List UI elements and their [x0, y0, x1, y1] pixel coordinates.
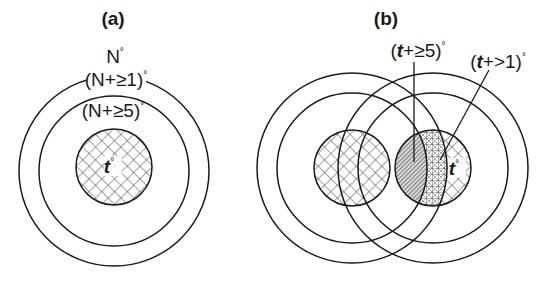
panel-a: (a) N° (N+≥1)° (N+≥5)° t° [19, 8, 209, 266]
diagram-canvas: (a) N° (N+≥1)° (N+≥5)° t° (b) (t+≥5)° (t… [0, 0, 544, 281]
label-N-ge1: (N+≥1)° [85, 69, 147, 90]
panel-a-label: (a) [101, 8, 124, 29]
left-target-circle [314, 130, 390, 206]
label-t-ge5: (t+≥5)° [390, 40, 445, 61]
panel-b: (b) (t+≥5)° (t+>1)° t° [257, 8, 528, 263]
label-t-gt1: (t+>1)° [470, 51, 526, 72]
label-N: N° [106, 46, 124, 67]
label-N-ge5: (N+≥5)° [82, 100, 144, 121]
panel-b-label: (b) [374, 8, 398, 29]
